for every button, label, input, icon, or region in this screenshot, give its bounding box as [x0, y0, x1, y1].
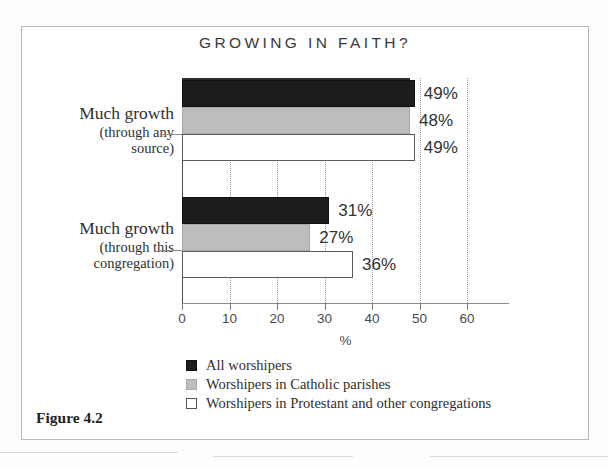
bar-1-0 — [182, 197, 329, 224]
category-label-line3: source) — [24, 140, 174, 156]
plot-area: 49%48%49%31%27%36% — [182, 78, 509, 303]
category-label-line2: (through this — [24, 239, 174, 255]
x-tick-label-40: 40 — [364, 311, 379, 326]
x-axis-line — [182, 303, 509, 304]
x-tick-label-60: 60 — [459, 311, 474, 326]
x-tick-20 — [277, 303, 278, 310]
x-tick-label-10: 10 — [222, 311, 237, 326]
legend-label-2: Worshipers in Protestant and other congr… — [206, 395, 491, 412]
x-tick-label-20: 20 — [269, 311, 284, 326]
chart-title: GROWING IN FAITH? — [21, 34, 589, 52]
bar-0-1 — [182, 107, 410, 134]
page-edge-artifact — [430, 456, 608, 457]
bar-value-label-1-2: 36% — [362, 255, 396, 275]
bar-value-label-0-1: 48% — [419, 111, 453, 131]
category-label-line1: Much growth — [24, 219, 174, 239]
bar-value-label-1-0: 31% — [338, 201, 372, 221]
x-tick-50 — [420, 303, 421, 310]
page-edge-artifact — [213, 456, 353, 457]
chart-legend: All worshipersWorshipers in Catholic par… — [186, 357, 491, 414]
x-tick-10 — [230, 303, 231, 310]
legend-item-0: All worshipers — [186, 357, 491, 374]
x-tick-label-30: 30 — [317, 311, 332, 326]
category-label-much-growth-any-source: Much growth (through any source) — [24, 104, 174, 156]
category-label-much-growth-this-congregation: Much growth (through this congregation) — [24, 219, 174, 271]
legend-swatch-icon-2 — [186, 398, 197, 409]
category-label-line2: (through any — [24, 124, 174, 140]
category-connector-line — [160, 134, 182, 135]
category-connector-line — [160, 250, 182, 251]
figure-caption: Figure 4.2 — [36, 409, 103, 427]
bar-0-2 — [182, 134, 415, 161]
category-label-line3: congregation) — [24, 255, 174, 271]
page-canvas: GROWING IN FAITH? 0102030405060 % Much g… — [0, 0, 608, 467]
legend-label-1: Worshipers in Catholic parishes — [206, 376, 390, 393]
bar-1-2 — [182, 251, 353, 278]
legend-swatch-icon-1 — [186, 379, 197, 390]
x-tick-30 — [325, 303, 326, 310]
x-tick-60 — [467, 303, 468, 310]
category-label-line1: Much growth — [24, 104, 174, 124]
x-tick-40 — [372, 303, 373, 310]
x-tick-label-0: 0 — [178, 311, 186, 326]
legend-label-0: All worshipers — [206, 357, 292, 374]
legend-swatch-icon-0 — [186, 360, 197, 371]
bar-1-1 — [182, 224, 310, 251]
bar-value-label-0-2: 49% — [424, 138, 458, 158]
x-tick-0 — [182, 303, 183, 310]
bar-0-0 — [182, 80, 415, 107]
bar-value-label-1-1: 27% — [319, 228, 353, 248]
legend-item-1: Worshipers in Catholic parishes — [186, 376, 491, 393]
x-axis-label: % — [182, 333, 509, 348]
x-tick-label-50: 50 — [412, 311, 427, 326]
page-edge-artifact — [0, 452, 178, 453]
legend-item-2: Worshipers in Protestant and other congr… — [186, 395, 491, 412]
bar-value-label-0-0: 49% — [424, 84, 458, 104]
